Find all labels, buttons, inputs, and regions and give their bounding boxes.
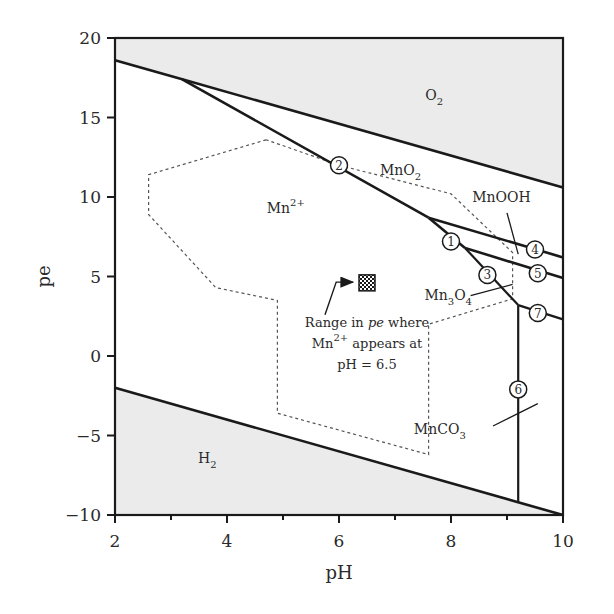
pe-range-marker [359, 275, 375, 291]
y-tick-label: 5 [90, 267, 101, 287]
y-tick-label: −10 [65, 505, 101, 525]
annotation-arrow [325, 282, 353, 315]
reaction-marker-3: 3 [479, 266, 496, 283]
reaction-marker-4: 4 [527, 241, 544, 258]
reaction-marker-1: 1 [443, 233, 460, 250]
reaction-marker-6: 6 [510, 381, 527, 398]
annotation-line-3: pH = 6.5 [337, 357, 397, 372]
y-tick-label: 0 [90, 346, 101, 366]
svg-text:6: 6 [514, 383, 522, 397]
leader-line-mnco3 [493, 404, 538, 426]
region-label: Mn2+ [267, 197, 305, 216]
x-tick-label: 2 [110, 531, 121, 551]
svg-text:1: 1 [447, 235, 455, 249]
pe-range-annotation: Range in pe whereMn2+ appears atpH = 6.5 [305, 275, 430, 373]
x-tick-label: 4 [222, 531, 233, 551]
svg-text:2: 2 [335, 159, 343, 173]
region-label: MnO2 [380, 162, 421, 182]
annotation-line-1: Range in pe where [305, 315, 430, 330]
x-axis-title: pH [325, 562, 352, 583]
y-tick-label: 15 [79, 108, 101, 128]
reaction-marker-7: 7 [529, 305, 546, 322]
annotation-line-2: Mn2+ appears at [312, 332, 423, 351]
region-label: MnOOH [472, 189, 531, 205]
x-tick-label: 6 [334, 531, 345, 551]
y-axis-title: pe [33, 265, 54, 287]
y-tick-label: 10 [79, 187, 101, 207]
pe-ph-diagram: 20151050−5−10246810pHpe 1234567 O2MnO2Mn… [0, 0, 614, 614]
reaction-marker-5: 5 [529, 265, 546, 282]
y-tick-label: −5 [76, 426, 101, 446]
svg-text:4: 4 [531, 243, 539, 257]
region-label: MnCO3 [414, 421, 466, 441]
region-label: Mn3O4 [424, 287, 472, 307]
leader-line-mnooh [507, 213, 518, 254]
svg-text:7: 7 [534, 307, 542, 321]
svg-text:3: 3 [484, 268, 492, 282]
reaction-marker-2: 2 [331, 157, 348, 174]
x-tick-label: 10 [552, 531, 574, 551]
svg-text:5: 5 [534, 267, 542, 281]
y-tick-label: 20 [79, 28, 101, 48]
x-tick-label: 8 [446, 531, 457, 551]
